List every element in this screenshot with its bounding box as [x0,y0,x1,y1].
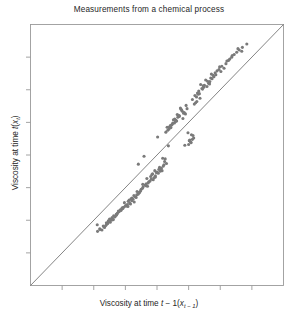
scatter-point [160,167,163,170]
scatter-point [162,163,165,166]
scatter-point [183,144,186,147]
scatter-point [197,90,200,93]
scatter-point [164,157,167,160]
scatter-point [193,94,196,97]
scatter-point [198,97,201,100]
scatter-point [245,43,248,46]
scatter-point [202,84,205,87]
x-axis-label: Viscosity at time t − 1(xt − 1) [0,299,298,309]
scatter-point [150,178,153,181]
scatter-point [126,205,129,208]
scatter-point [191,98,194,101]
scatter-point [179,108,182,111]
scatter-point [210,77,213,80]
scatter-point [192,134,195,137]
scatter-plot-figure: Measurements from a chemical process Vis… [0,0,298,318]
scatter-point [208,82,211,85]
scatter-point [223,67,226,70]
scatter-point [218,65,221,68]
scatter-point [96,223,99,226]
scatter-point [241,46,244,49]
scatter-point [99,228,102,231]
scatter-point [137,163,140,166]
scatter-point [154,176,157,179]
scatter-point [133,200,136,203]
scatter-point [184,112,187,115]
scatter-point [169,126,172,129]
scatter-point [149,175,152,178]
scatter-point [156,136,159,139]
scatter-point [187,143,190,146]
scatter-point [121,206,124,209]
scatter-point [145,177,148,180]
x-axis-label-middle: − 1( [163,299,180,308]
x-axis-ticks [62,286,252,291]
scatter-point [177,114,180,117]
scatter-point [172,118,175,121]
scatter-point [157,172,160,175]
scatter-point [194,101,197,104]
scatter-point [235,51,238,54]
scatter-point [146,185,149,188]
scatter-point [191,138,194,141]
scatter-point [138,191,141,194]
scatter-point [135,196,138,199]
scatter-point [175,120,178,123]
scatter-point [108,217,111,220]
scatter-point [115,213,118,216]
scatter-point [233,53,236,56]
scatter-point [230,56,233,59]
scatter-point [171,123,174,126]
scatter-point [181,117,184,120]
scatter-point [167,144,170,147]
scatter-point [135,193,138,196]
scatter-point [206,80,209,83]
plot-canvas [0,0,298,318]
scatter-point [240,50,243,53]
scatter-point [214,73,217,76]
scatter-point [227,59,230,62]
scatter-point [224,62,227,65]
x-axis-label-subscript: t − 1 [184,303,196,309]
scatter-point [151,172,154,175]
scatter-point [185,107,188,110]
scatter-point [190,141,193,144]
scatter-point [236,47,239,50]
scatter-point [141,187,144,190]
scatter-point [96,230,99,233]
scatter-point [197,93,200,96]
scatter-point [123,201,126,204]
x-axis-label-suffix: ) [196,299,199,308]
scatter-point [185,104,188,107]
scatter-point [142,155,145,158]
x-axis-label-prefix: Viscosity at time [100,299,161,308]
y-axis-ticks [26,57,31,253]
scatter-point [129,202,132,205]
scatter-point [104,224,107,227]
scatter-point [219,70,222,73]
scatter-point [186,131,189,134]
